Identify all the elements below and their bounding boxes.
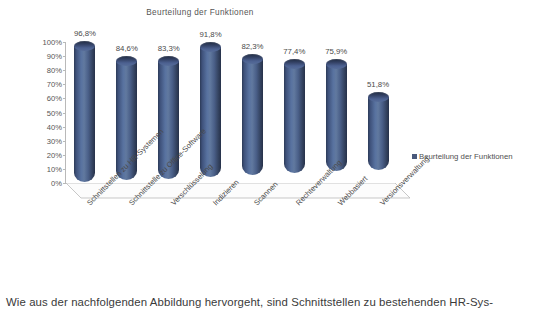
y-tick-label: 0%	[51, 179, 62, 188]
bar[interactable]: 91,8%	[200, 47, 221, 176]
bar-cylinder-body	[74, 46, 95, 182]
y-tick-label: 80%	[47, 66, 62, 75]
bar-cylinder-body	[242, 59, 263, 175]
chart-container: Beurteilung der Funktionen 100%90%80%70%…	[0, 0, 539, 288]
bar[interactable]: 96,8%	[74, 46, 95, 182]
bar[interactable]: 51,8%	[368, 97, 389, 170]
bar-value-label: 96,8%	[74, 29, 96, 38]
legend-label: Beurteilung der Funktionen	[419, 152, 513, 161]
y-tick-label: 50%	[47, 108, 62, 117]
bar-value-label: 77,4%	[283, 47, 305, 56]
bar-value-label: 51,8%	[367, 80, 389, 89]
y-tick-label: 20%	[47, 150, 62, 159]
y-tick-label: 60%	[47, 94, 62, 103]
bar-cylinder-top	[158, 56, 179, 66]
bar-cylinder-top	[200, 42, 221, 52]
bar-cylinder-top	[284, 59, 305, 69]
y-tick-label: 40%	[47, 122, 62, 131]
bar-cylinder-body	[284, 64, 305, 173]
bar[interactable]: 82,3%	[242, 59, 263, 175]
bar-cylinder-top	[326, 59, 347, 69]
bar-value-label: 84,6%	[116, 44, 138, 53]
bar-cylinder-body	[368, 97, 389, 170]
body-paragraph: Wie aus der nachfolgenden Abbildung herv…	[6, 296, 536, 308]
bar[interactable]: 77,4%	[284, 64, 305, 173]
bar-value-label: 75,9%	[325, 47, 347, 56]
bar-cylinder-top	[368, 92, 389, 102]
bar-cylinder-top	[74, 41, 95, 51]
y-tick-label: 90%	[47, 52, 62, 61]
chart-legend: Beurteilung der Funktionen	[412, 152, 513, 161]
legend-swatch-icon	[412, 154, 417, 159]
bar[interactable]: 75,9%	[326, 64, 347, 171]
bar-value-label: 82,3%	[241, 42, 263, 51]
bar-cylinder-body	[326, 64, 347, 171]
bar-value-label: 83,3%	[158, 44, 180, 53]
bar-cylinder-body	[200, 47, 221, 176]
y-tick-label: 30%	[47, 136, 62, 145]
chart-title: Beurteilung der Funktionen	[0, 8, 400, 17]
bar-value-label: 91,8%	[200, 30, 222, 39]
bar-cylinder-top	[116, 56, 137, 66]
y-tick-label: 70%	[47, 80, 62, 89]
y-tick-label: 100%	[43, 38, 62, 47]
bar-cylinder-top	[242, 54, 263, 64]
y-tick-label: 10%	[47, 164, 62, 173]
